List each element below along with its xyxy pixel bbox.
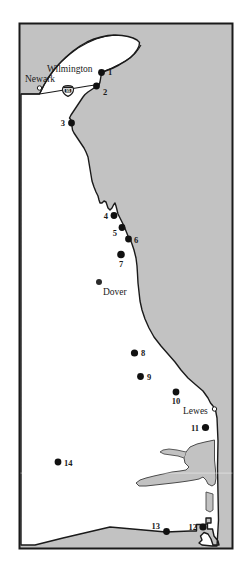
delaware-map: Wilmington Newark Dover Lewes 95 1 2 xyxy=(0,0,251,574)
site-dot-5[interactable] xyxy=(119,224,126,231)
site-label-13: 13 xyxy=(152,521,161,531)
site-label-14: 14 xyxy=(64,458,73,468)
site-label-10: 10 xyxy=(172,396,181,406)
site-label-12: 12 xyxy=(189,522,198,532)
site-label-6: 6 xyxy=(134,235,138,245)
little-assawoman-bay xyxy=(206,492,213,512)
site-label-11: 11 xyxy=(191,423,199,433)
city-label-lewes: Lewes xyxy=(183,406,208,416)
site-dot-14[interactable] xyxy=(55,459,62,466)
city-label-newark: Newark xyxy=(25,74,55,84)
site-label-3: 3 xyxy=(61,118,65,128)
site-dot-4[interactable] xyxy=(111,212,118,219)
site-dot-2[interactable] xyxy=(93,83,100,90)
scan-artifact-line xyxy=(21,473,233,474)
site-dot-13[interactable] xyxy=(163,528,170,535)
dover-city-marker xyxy=(96,279,102,285)
shield-number-label: 95 xyxy=(66,88,71,93)
site-dot-10[interactable] xyxy=(173,389,180,396)
lewes-city-marker xyxy=(212,407,216,411)
site-dot-6[interactable] xyxy=(125,236,132,243)
site-dot-12[interactable] xyxy=(199,523,206,530)
site-dot-1[interactable] xyxy=(98,69,105,76)
map-figure: Wilmington Newark Dover Lewes 95 1 2 xyxy=(0,0,251,574)
site-dot-7[interactable] xyxy=(117,251,125,259)
site-label-5: 5 xyxy=(113,228,117,238)
site-dot-11[interactable] xyxy=(202,424,209,431)
site-label-2: 2 xyxy=(103,87,107,97)
site-marker-10[interactable]: 10 xyxy=(172,389,181,406)
site-label-8: 8 xyxy=(141,348,145,358)
newark-city-marker xyxy=(37,86,41,90)
city-label-wilmington: Wilmington xyxy=(47,64,93,74)
site-dot-3[interactable] xyxy=(68,120,75,127)
site-label-1: 1 xyxy=(108,67,112,77)
site-dot-9[interactable] xyxy=(137,373,144,380)
city-label-dover: Dover xyxy=(103,287,128,297)
site-dot-8[interactable] xyxy=(131,349,138,356)
site-label-9: 9 xyxy=(147,372,151,382)
